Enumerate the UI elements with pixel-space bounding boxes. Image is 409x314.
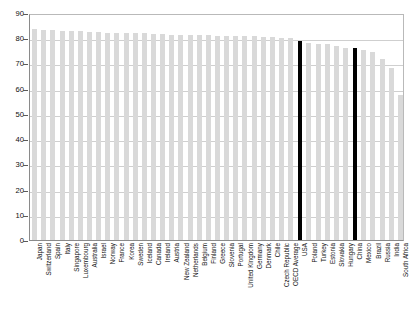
bar (197, 35, 202, 240)
x-axis-category-label: OECD Average (292, 243, 299, 286)
x-axis-category-label: Slovenia (228, 243, 235, 267)
x-axis-category-label: Australia (91, 243, 98, 268)
bar (380, 59, 385, 240)
x-axis-category-label: Portugal (237, 243, 244, 266)
x-axis-category-label: Brazil (375, 243, 382, 259)
y-axis-tick (23, 140, 28, 141)
bar (114, 33, 119, 240)
x-axis-category-label: Austria (173, 243, 180, 263)
bar (188, 35, 193, 240)
x-axis-category-label: Turkey (320, 243, 327, 262)
x-axis-category-label: Italy (64, 243, 71, 255)
y-axis-tick-label: 10 (4, 212, 24, 220)
y-axis-tick (23, 216, 28, 217)
bar (60, 31, 65, 240)
x-axis-category-label: Luxembourg (82, 243, 89, 278)
y-axis-tick (23, 191, 28, 192)
bar (178, 35, 183, 240)
bar (69, 31, 74, 240)
bar (343, 48, 348, 240)
bar (124, 33, 129, 240)
y-axis-tick (23, 64, 28, 65)
bar (233, 36, 238, 240)
x-axis-category-label: New Zealand (183, 243, 190, 280)
bar (87, 32, 92, 240)
bar (215, 36, 220, 240)
bar (41, 30, 46, 240)
bar-series (30, 15, 403, 240)
x-axis-category-label: Norway (109, 243, 116, 264)
bar (316, 44, 321, 240)
x-axis-category-label: USA (301, 243, 308, 256)
y-axis-tick (23, 241, 28, 242)
x-axis-category-label: Belgium (201, 243, 208, 266)
x-axis-category-label: Slovakia (338, 243, 345, 267)
bar (288, 38, 293, 240)
y-axis-tick (23, 165, 28, 166)
bar (353, 48, 357, 240)
x-axis-category-label: Finland (210, 243, 217, 264)
x-axis-category-label: Russia (384, 243, 391, 262)
x-axis-category-label: Chile (274, 243, 281, 257)
bar (325, 44, 330, 240)
y-axis-tick-label: 0 (4, 237, 24, 245)
y-axis-tick (23, 115, 28, 116)
bar (78, 31, 83, 240)
bar (96, 32, 101, 240)
y-axis-tick-label: 90 (4, 10, 24, 18)
y-axis-tick-label: 40 (4, 136, 24, 144)
y-axis-tick-label: 30 (4, 161, 24, 169)
y-axis-tick-label: 20 (4, 187, 24, 195)
x-axis-category-label: France (118, 243, 125, 263)
bar (133, 33, 138, 240)
x-axis-category-label: United Kingdom (247, 243, 254, 288)
bar (334, 46, 339, 240)
bar (169, 35, 174, 240)
y-axis-tick (23, 39, 28, 40)
x-axis-category-label: Denmark (265, 243, 272, 269)
bar (389, 68, 394, 240)
x-axis-category-label: Korea (128, 243, 135, 260)
x-axis-category-label: Iceland (146, 243, 153, 263)
x-axis-category-label: Israel (100, 243, 107, 258)
bar (242, 36, 247, 240)
bar (252, 36, 257, 240)
bar (206, 35, 211, 240)
bar (306, 43, 311, 240)
x-axis-category-label: South Africa (402, 243, 409, 277)
x-axis-category-label: Sweden (137, 243, 144, 266)
y-axis-tick-label: 60 (4, 86, 24, 94)
x-axis-category-label: China (356, 243, 363, 259)
x-axis-category-label: Hungary (347, 243, 354, 267)
x-axis-category-label: Germany (256, 243, 263, 269)
x-axis-category-label: Poland (311, 243, 318, 263)
y-axis-tick-label: 80 (4, 35, 24, 43)
x-axis-category-label: Ireland (164, 243, 171, 262)
bar (142, 33, 147, 240)
x-axis-category-label: Canada (155, 243, 162, 265)
x-axis-category-label: Singapore (73, 243, 80, 272)
bar (151, 34, 156, 240)
x-axis-category-label: Japan (36, 243, 43, 260)
x-axis-category-label: Spain (54, 243, 61, 259)
bar (105, 33, 110, 240)
bar (370, 52, 375, 240)
x-axis-category-label: Greece (219, 243, 226, 264)
bar (224, 36, 229, 240)
x-axis-category-label: Estonia (329, 243, 336, 264)
bar (270, 37, 275, 240)
x-axis-category-label: Mexico (365, 243, 372, 263)
bar (398, 95, 403, 240)
y-axis-tick (23, 14, 28, 15)
bar (279, 38, 284, 240)
plot-area (29, 14, 404, 241)
bar (32, 29, 37, 240)
bar (50, 30, 55, 240)
bar (298, 41, 302, 240)
y-axis-tick (23, 90, 28, 91)
bar (361, 50, 366, 240)
x-axis-category-label: India (393, 243, 400, 257)
y-axis-tick-label: 50 (4, 111, 24, 119)
bar (160, 34, 165, 240)
